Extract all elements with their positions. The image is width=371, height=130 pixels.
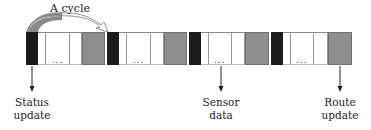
route-slot [245, 32, 269, 65]
ellipsis: ... [214, 56, 226, 64]
slot-white [283, 32, 291, 65]
route-slot [328, 32, 352, 65]
label-line: data [191, 109, 251, 122]
label-line: Sensor [191, 96, 251, 109]
status-update-arrow [30, 66, 35, 92]
cycle-diagram: A cycle ... ... ... ... Status update Se… [0, 0, 371, 130]
label-line: Route [310, 96, 370, 109]
slot-white [38, 32, 46, 65]
route-slot [82, 32, 105, 65]
cycle-label: A cycle [40, 2, 100, 15]
status-slot [26, 32, 38, 65]
ellipsis: ... [296, 56, 308, 64]
status-update-label: Status update [2, 96, 62, 122]
ellipsis: ... [52, 56, 64, 64]
label-line: update [310, 109, 370, 122]
status-slot [189, 32, 201, 65]
slot-white [314, 32, 328, 65]
route-update-arrow [338, 66, 343, 92]
slot-white [119, 32, 127, 65]
sensor-data-arrow [219, 66, 224, 92]
slot-white [151, 32, 164, 65]
route-update-label: Route update [310, 96, 370, 122]
status-slot [107, 32, 119, 65]
ellipsis: ... [133, 56, 145, 64]
label-line: update [2, 109, 62, 122]
slot-white [70, 32, 82, 65]
sensor-data-label: Sensor data [191, 96, 251, 122]
label-line: Status [2, 96, 62, 109]
status-slot [271, 32, 283, 65]
slot-white [232, 32, 245, 65]
slot-white [201, 32, 209, 65]
cycle-arc-arrow [27, 13, 108, 32]
route-slot [164, 32, 187, 65]
